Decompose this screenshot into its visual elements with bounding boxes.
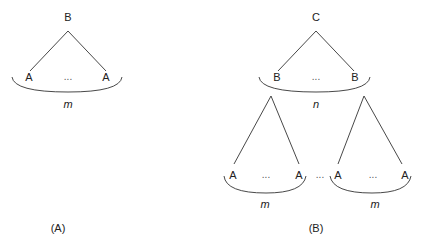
tree-diagram-figure: B A ... A m (A) C B ... B n A ... A m ..… — [0, 0, 424, 248]
subtree-edge-left — [338, 96, 364, 164]
edge-left — [278, 31, 316, 71]
edge-right — [316, 31, 354, 71]
leaf-a-left: A — [229, 169, 237, 181]
diagram-a: B A ... A m (A) — [12, 11, 122, 234]
subtree-edge-right — [364, 96, 402, 164]
child-b-right: B — [351, 71, 358, 83]
node-c-root: C — [312, 11, 320, 23]
ellipsis: ... — [64, 71, 72, 82]
child-ellipsis: ... — [312, 71, 320, 82]
edge-right — [68, 31, 106, 71]
caption-a: (A) — [51, 222, 66, 234]
subtree-edge-left — [234, 96, 271, 164]
subtree-left: A ... A m — [224, 96, 306, 210]
edge-left — [30, 31, 68, 71]
between-subtrees-ellipsis: ... — [316, 169, 324, 180]
subtree-edge-right — [271, 96, 299, 164]
count-label-m: m — [260, 198, 269, 210]
diagram-b: C B ... B n A ... A m ... A ... A m ( — [224, 11, 411, 234]
subtree-right: A ... A m — [330, 96, 411, 210]
ellipsis: ... — [262, 169, 270, 180]
ellipsis: ... — [369, 169, 377, 180]
leaf-a-right: A — [295, 169, 303, 181]
count-label-m: m — [370, 198, 379, 210]
figure-svg: B A ... A m (A) C B ... B n A ... A m ..… — [0, 0, 424, 248]
node-b-root: B — [64, 11, 71, 23]
leaf-a-right: A — [401, 169, 409, 181]
count-label-n: n — [313, 98, 319, 110]
leaf-a-left: A — [334, 169, 342, 181]
count-label-m: m — [63, 98, 72, 110]
child-b-left: B — [273, 71, 280, 83]
leaf-a-left: A — [25, 71, 33, 83]
caption-b: (B) — [309, 222, 324, 234]
leaf-a-right: A — [102, 71, 110, 83]
